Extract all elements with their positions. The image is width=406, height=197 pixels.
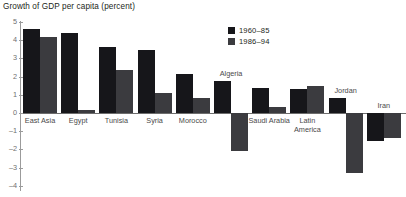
y-tick-label: –1: [9, 128, 17, 135]
legend-swatch-series2: [228, 38, 235, 45]
bar: [193, 98, 210, 113]
category-label: Latin America: [284, 117, 330, 135]
y-tick-mark: [19, 186, 23, 187]
bar: [155, 93, 172, 113]
bar: [138, 50, 155, 113]
bar: [329, 98, 346, 113]
bar: [78, 110, 95, 113]
legend-label-series2: 1986–94: [239, 37, 270, 46]
legend-swatch-series1: [228, 27, 235, 34]
bar: [367, 113, 384, 141]
y-axis-line: [20, 21, 21, 191]
bar: [384, 113, 401, 138]
y-tick-mark: [19, 22, 23, 23]
y-tick-label: 5: [13, 18, 17, 25]
legend-item: 1986–94: [228, 36, 270, 47]
category-label: Iran: [361, 102, 406, 111]
bar: [214, 81, 231, 113]
category-label: Algeria: [208, 70, 254, 79]
bar: [346, 113, 363, 173]
y-tick-mark: [19, 168, 23, 169]
y-tick-mark: [19, 149, 23, 150]
plot-area: 543210–1–2–3–4 East AsiaEgyptTunisiaSyri…: [20, 18, 406, 194]
legend-item: 1960–85: [228, 25, 270, 36]
bar: [116, 70, 133, 113]
y-tick-label: 0: [13, 109, 17, 116]
y-tick-label: 2: [13, 73, 17, 80]
gdp-growth-bar-chart: Growth of GDP per capita (percent) 54321…: [0, 0, 406, 197]
bar: [269, 107, 286, 113]
category-label: Morocco: [170, 117, 216, 126]
bar: [99, 47, 116, 113]
y-tick-label: –2: [9, 146, 17, 153]
category-label: Jordan: [323, 87, 369, 96]
y-tick-mark: [19, 113, 23, 114]
bar: [252, 88, 269, 113]
bar: [176, 74, 193, 113]
y-tick-label: –4: [9, 182, 17, 189]
bar: [290, 89, 307, 113]
y-tick-label: 3: [13, 55, 17, 62]
y-tick-label: 4: [13, 37, 17, 44]
legend-label-series1: 1960–85: [239, 26, 270, 35]
bar: [40, 37, 57, 113]
chart-title: Growth of GDP per capita (percent): [3, 2, 135, 11]
y-tick-label: 1: [13, 91, 17, 98]
legend: 1960–85 1986–94: [228, 25, 270, 47]
bar: [23, 29, 40, 113]
y-tick-mark: [19, 131, 23, 132]
bar: [61, 33, 78, 113]
y-tick-label: –3: [9, 164, 17, 171]
